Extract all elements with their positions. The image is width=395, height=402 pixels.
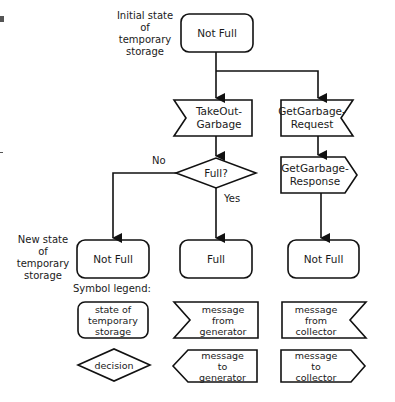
legend-label: to — [311, 361, 321, 372]
legend-label: from — [305, 315, 327, 326]
new-state-label: New state of temporary storage — [12, 234, 74, 282]
legend-label: message — [295, 304, 338, 315]
node-label: Not Full — [197, 27, 237, 40]
edge-label-no: No — [152, 155, 166, 167]
edge-label-yes: Yes — [224, 193, 240, 205]
new-state-full-text: Full — [180, 240, 252, 278]
legend-label: collector — [296, 372, 337, 383]
legend-item-message-to-generator: message to generator — [188, 350, 257, 382]
get-garbage-request-text: GetGarbage- Request — [281, 100, 343, 136]
legend-item-message-from-generator: message from generator — [190, 302, 256, 338]
legend-label: decision — [94, 360, 133, 371]
takeout-garbage-text: TakeOut- Garbage — [186, 100, 252, 136]
get-garbage-response-text: GetGarbage- Response — [281, 157, 349, 193]
node-label: Request — [291, 118, 334, 131]
legend-label: generator — [200, 326, 247, 337]
legend-item-message-from-collector: message from collector — [282, 302, 350, 338]
legend-label: state of — [95, 304, 131, 315]
initial-state-text: Not Full — [181, 14, 253, 52]
label-line: storage — [12, 270, 74, 282]
label-line: temporary — [12, 258, 74, 270]
node-label: Not Full — [304, 253, 344, 266]
edge-initial-to-request — [216, 71, 318, 98]
node-label: GetGarbage- — [281, 162, 349, 175]
node-label: TakeOut- — [196, 105, 242, 118]
edge-decision-no — [113, 173, 176, 238]
new-state-not-full-right-text: Not Full — [288, 240, 359, 278]
node-label: Not Full — [93, 253, 133, 266]
node-label: Garbage — [196, 118, 241, 131]
full-decision-text: Full? — [186, 160, 246, 186]
new-state-not-full-left-text: Not Full — [77, 240, 149, 278]
initial-state-label: Initial state of temporary storage — [115, 10, 175, 58]
legend-label: message — [295, 350, 338, 361]
label-line: Initial state — [115, 10, 175, 22]
label-line: of — [115, 22, 175, 34]
legend-label: message — [202, 304, 245, 315]
legend-item-decision: decision — [78, 349, 150, 381]
flowchart-canvas — [0, 0, 395, 402]
node-label: GetGarbage- — [278, 105, 346, 118]
label-line: of — [12, 246, 74, 258]
label-line: temporary — [115, 34, 175, 46]
node-label: Response — [290, 175, 340, 188]
legend-label: collector — [296, 326, 337, 337]
legend-item-message-to-collector: message to collector — [281, 350, 351, 382]
label-line: storage — [115, 46, 175, 58]
label-line: New state — [12, 234, 74, 246]
legend-title: Symbol legend: — [73, 283, 151, 295]
legend-label: to — [218, 361, 228, 372]
node-label: Full? — [204, 167, 228, 180]
legend-item-state: state of temporary storage — [78, 302, 148, 338]
node-label: Full — [207, 253, 225, 266]
legend-label: temporary — [88, 315, 138, 326]
legend-label: from — [212, 315, 234, 326]
legend-label: message — [201, 350, 244, 361]
legend-label: generator — [199, 372, 246, 383]
legend-label: storage — [95, 326, 131, 337]
